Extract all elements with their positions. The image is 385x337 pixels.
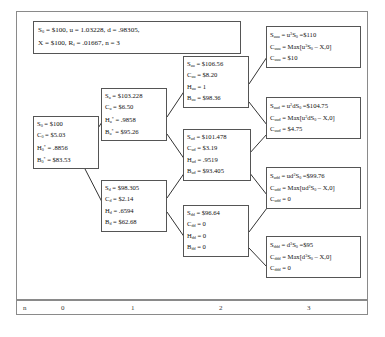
node-d-line-4: Bd = $62.68 [105,217,163,228]
node-d-line-2: Cd = $2.14 [105,194,163,205]
node-uud-line-2: Cuud = Max[u2dS0 – X,0] [270,112,357,124]
parameters-line-2: X = $100, Rf = .01667, n = 3 [38,38,236,51]
node-ddd-line-1: Sddd = d3S0 =$95 [270,239,357,251]
node-dd-line-2: Cdd = 0 [187,219,245,230]
axis-label-n: n [23,302,27,314]
node-dd: Sdd = $96.64Cdd = 0Hdd = 0Bdd = 0 [183,205,249,257]
diagram-page: S0 = $100, u = 1.03228, d = .98305, X = … [0,0,385,337]
edge-ud-udd [249,172,267,195]
node-u-line-4: Bu* = $95.26 [105,126,163,138]
node-uuu: Suuu = u3S0 =$110Cuuu = Max[u3S0 – X,0]C… [266,26,361,68]
node-ddd-line-2: Cddd = Max[d3S0 – X,0] [270,251,357,263]
edge-dd-udd [249,208,267,232]
node-ud-line-2: Cud = $3.19 [187,143,247,154]
node-d-line-3: Hd = .6594 [105,206,163,217]
node-udd: Sudd = ud2S0 =$99.76Cudd = Max[ud2S0 – X… [266,167,361,209]
node-uu-line-1: Suu = $106.56 [187,59,245,70]
node-uu-line-3: Huu = 1 [187,82,245,93]
node-uu: Suu = $106.56Cuu = $8.20Huu = 1Buu = $98… [183,56,249,108]
parameters-line-1: S0 = $100, u = 1.03228, d = .98305, [38,25,236,38]
axis-tick-0: 0 [61,302,65,314]
node-uuu-line-3: Cuuu = $10 [270,53,357,64]
node-u-line-3: Hu* = .9858 [105,114,163,126]
node-root-line-1: S0 = $100 [37,119,95,130]
diagram-frame: S0 = $100, u = 1.03228, d = .98305, X = … [16,11,368,300]
parameters-box: S0 = $100, u = 1.03228, d = .98305, X = … [33,21,241,54]
edge-dd-ddd [249,248,267,267]
node-dd-line-4: Bdd = 0 [187,242,245,253]
node-ud-line-4: Bud = $93.405 [187,166,247,177]
node-ud: Sud = $101.478Cud = $3.19Hud = .9519Bud … [183,129,251,181]
node-root-line-2: C0 = $5.03 [37,130,95,141]
axis-tick-1: 1 [131,302,135,314]
node-dd-line-3: Hdd = 0 [187,231,245,242]
node-udd-line-2: Cudd = Max[ud2S0 – X,0] [270,182,357,194]
node-uuu-line-2: Cuuu = Max[u3S0 – X,0] [270,41,357,53]
node-u-line-1: Su = $103.228 [105,91,163,102]
node-uud-line-3: Cuud = $4.75 [270,124,357,135]
node-udd-line-1: Sudd = ud2S0 =$99.76 [270,170,357,182]
node-u-line-2: Cu = $6.50 [105,102,163,113]
node-root-line-3: H0* = .8856 [37,142,95,154]
node-root-line-4: B0* = $83.53 [37,154,95,166]
node-udd-line-3: Cudd = 0 [270,194,357,205]
node-ddd: Sddd = d3S0 =$95Cddd = Max[d3S0 – X,0]Cd… [266,236,361,278]
node-u: Su = $103.228Cu = $6.50Hu* = .9858Bu* = … [101,88,167,141]
node-root: S0 = $100C0 = $5.03H0* = .8856B0* = $83.… [33,116,99,169]
edge-ud-uud [249,134,267,154]
node-uu-line-2: Cuu = $8.20 [187,70,245,81]
node-dd-line-1: Sdd = $96.64 [187,208,245,219]
axis-tick-3: 3 [307,302,311,314]
node-uu-line-4: Buu = $98.36 [187,93,245,104]
node-ud-line-1: Sud = $101.478 [187,132,247,143]
node-ddd-line-3: Cddd = 0 [270,263,357,274]
edge-uu-uuu [249,57,267,84]
node-d: Sd = $98.305Cd = $2.14Hd = .6594Bd = $62… [101,180,167,232]
node-ud-line-3: Hud = .9519 [187,155,247,166]
edge-uu-uud [249,102,267,125]
node-uud-line-1: Suud = u2dS0 =$104.75 [270,100,357,112]
node-uud: Suud = u2dS0 =$104.75Cuud = Max[u2dS0 – … [266,97,361,139]
node-d-line-1: Sd = $98.305 [105,183,163,194]
node-uuu-line-1: Suuu = u3S0 =$110 [270,29,357,41]
edge-root-d [84,167,102,202]
axis-tick-2: 2 [219,302,223,314]
period-axis: n 0 1 2 3 [16,300,368,315]
